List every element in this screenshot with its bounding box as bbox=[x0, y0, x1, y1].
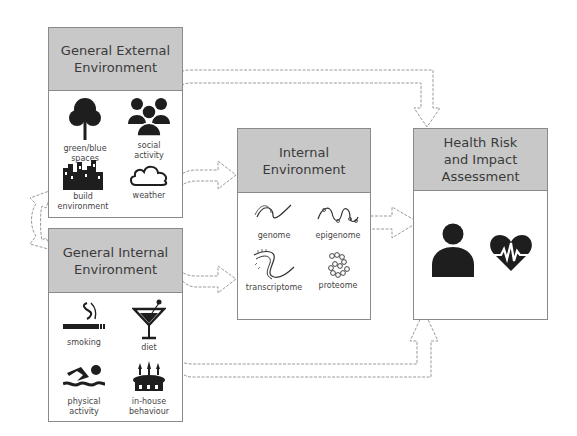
item-label: epigenome bbox=[308, 231, 368, 241]
person-icon bbox=[432, 223, 474, 277]
dna-strand-icon bbox=[253, 203, 295, 223]
protein-chain-icon bbox=[323, 251, 353, 279]
cake-icon bbox=[131, 359, 167, 395]
box-title: Health Risk and Impact Assessment bbox=[414, 129, 547, 191]
item-label: in-house behaviour bbox=[119, 397, 179, 417]
arrow-internal-general-to-internal bbox=[176, 262, 236, 293]
item-smoking: smoking bbox=[54, 301, 114, 348]
item-weather: weather bbox=[119, 163, 179, 201]
methylated-strand-icon bbox=[316, 203, 360, 227]
cocktail-glass-icon bbox=[132, 299, 166, 341]
internal-environment-box: Internal Environment genome epigenome tr… bbox=[237, 128, 371, 320]
health-risk-assessment-box: Health Risk and Impact Assessment bbox=[413, 128, 548, 320]
arrow-external-to-internal bbox=[176, 161, 236, 190]
cloud-icon bbox=[128, 163, 170, 187]
item-in-house-behaviour: in-house behaviour bbox=[119, 359, 179, 417]
arrow-external-to-health bbox=[176, 70, 440, 127]
item-label: genome bbox=[244, 231, 304, 241]
item-proteome: proteome bbox=[308, 251, 368, 291]
city-buildings-icon bbox=[63, 160, 103, 190]
box-title: General External Environment bbox=[49, 28, 182, 91]
item-label: build environment bbox=[53, 192, 113, 212]
item-build-environment: build environment bbox=[53, 160, 113, 212]
box-title: Internal Environment bbox=[238, 129, 370, 193]
item-label: diet bbox=[119, 343, 179, 353]
item-label: social activity bbox=[119, 141, 179, 161]
item-diet: diet bbox=[119, 299, 179, 353]
general-external-environment-box: General External Environment green/blue … bbox=[48, 27, 183, 218]
box-title: General Internal Environment bbox=[49, 229, 182, 293]
item-label: smoking bbox=[54, 338, 114, 348]
item-social-activity: social activity bbox=[119, 96, 179, 161]
item-label: transcriptome bbox=[244, 283, 304, 293]
tree-icon bbox=[68, 96, 102, 142]
item-label: weather bbox=[119, 191, 179, 201]
heart-pulse-icon bbox=[489, 233, 533, 273]
item-genome: genome bbox=[244, 203, 304, 241]
swimmer-icon bbox=[63, 363, 105, 391]
arrow-internal-to-health bbox=[366, 207, 418, 238]
rna-strand-icon bbox=[252, 249, 296, 281]
cigarette-icon bbox=[63, 301, 105, 333]
item-green-blue-spaces: green/blue spaces bbox=[55, 96, 115, 164]
item-label: physical activity bbox=[54, 397, 114, 417]
item-epigenome: epigenome bbox=[308, 203, 368, 241]
general-internal-environment-box: General Internal Environment smoking die… bbox=[48, 228, 183, 422]
item-label: proteome bbox=[308, 281, 368, 291]
arrow-internal-general-to-health bbox=[176, 311, 438, 377]
item-physical-activity: physical activity bbox=[54, 363, 114, 417]
people-group-icon bbox=[128, 96, 170, 136]
item-transcriptome: transcriptome bbox=[244, 249, 304, 293]
